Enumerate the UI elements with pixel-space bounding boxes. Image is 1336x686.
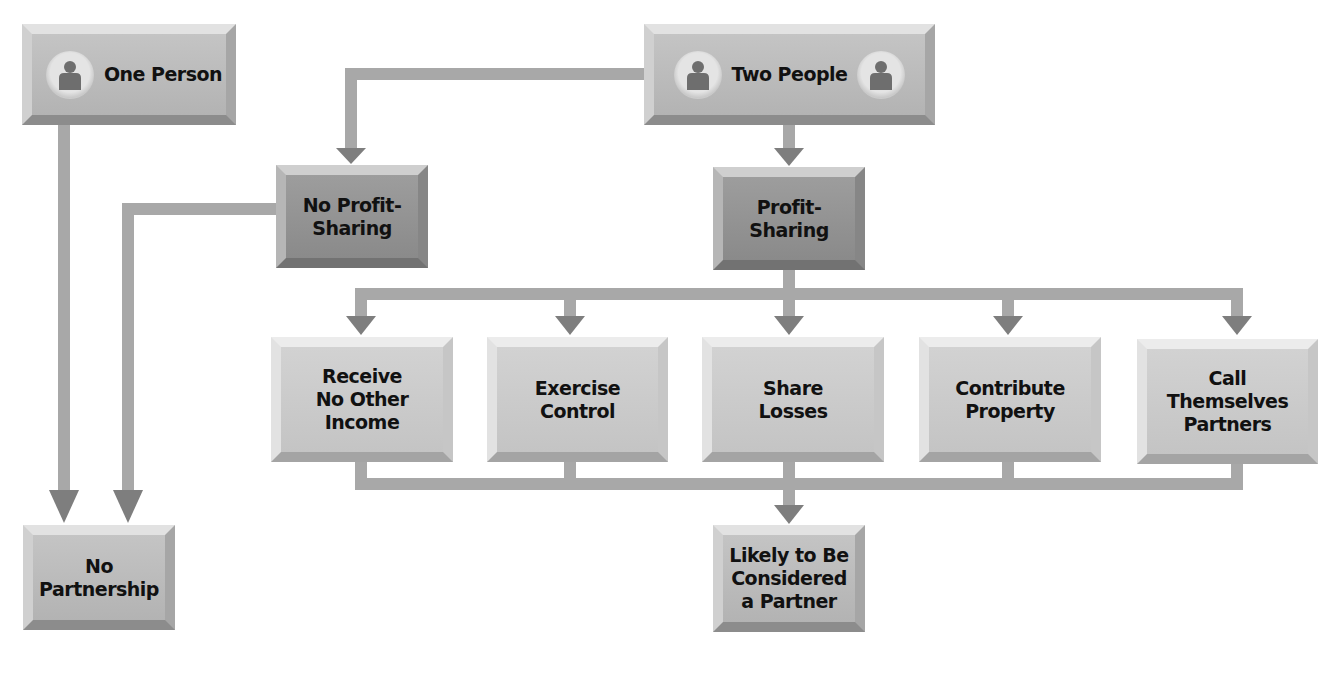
node-label: No Profit- Sharing bbox=[303, 194, 402, 240]
node-label: Receive No Other Income bbox=[316, 365, 409, 433]
node-two-people: Two People bbox=[644, 24, 935, 125]
node-receive-no-other-income: Receive No Other Income bbox=[271, 337, 453, 462]
node-exercise-control: Exercise Control bbox=[487, 337, 668, 462]
node-label: Share Losses bbox=[759, 377, 828, 423]
person-icon bbox=[46, 51, 94, 99]
node-share-losses: Share Losses bbox=[702, 337, 884, 462]
node-call-themselves-partners: Call Themselves Partners bbox=[1137, 339, 1318, 464]
node-label: Profit- Sharing bbox=[749, 196, 829, 242]
node-label: No Partnership bbox=[39, 555, 159, 601]
node-profit-sharing: Profit- Sharing bbox=[713, 167, 865, 270]
person-icon bbox=[674, 51, 722, 99]
node-contribute-property: Contribute Property bbox=[919, 337, 1101, 462]
node-no-profit-sharing: No Profit- Sharing bbox=[276, 165, 428, 268]
node-likely-partner: Likely to Be Considered a Partner bbox=[713, 525, 865, 632]
node-label: Call Themselves Partners bbox=[1167, 367, 1288, 435]
node-label: Two People bbox=[732, 63, 848, 86]
node-label: Likely to Be Considered a Partner bbox=[729, 544, 848, 612]
node-no-partnership: No Partnership bbox=[23, 525, 175, 630]
node-label: One Person bbox=[104, 63, 222, 86]
node-label: Contribute Property bbox=[955, 377, 1065, 423]
node-one-person: One Person bbox=[22, 24, 236, 125]
person-icon bbox=[857, 51, 905, 99]
node-label: Exercise Control bbox=[535, 377, 620, 423]
